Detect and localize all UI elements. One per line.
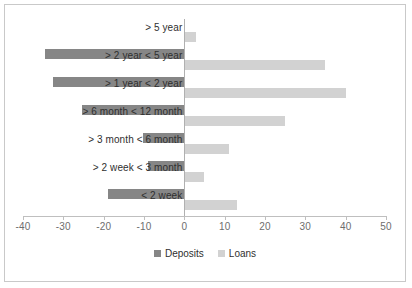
x-tick-label: 10: [205, 221, 245, 232]
x-tick-mark: [225, 216, 226, 220]
x-tick-label: -40: [4, 221, 43, 232]
legend-label: Loans: [229, 248, 256, 259]
x-tick-label: 0: [164, 221, 204, 232]
x-tick-mark: [346, 216, 347, 220]
x-tick-label: 20: [245, 221, 285, 232]
bar-loans: [184, 32, 196, 42]
x-tick-mark: [63, 216, 64, 220]
x-tick-mark: [386, 216, 387, 220]
legend-item[interactable]: Loans: [218, 248, 256, 259]
x-tick-label: 50: [366, 221, 406, 232]
category-label: > 2 year < 5 year: [4, 50, 182, 61]
legend-label: Deposits: [165, 248, 204, 259]
zero-axis-line: [184, 19, 185, 216]
x-axis-line: [23, 216, 386, 217]
category-label: > 3 month < 6 month: [4, 134, 182, 145]
bar-loans: [184, 172, 204, 182]
bar-loans: [184, 88, 345, 98]
x-tick-label: -10: [124, 221, 164, 232]
bar-loans: [184, 144, 228, 154]
chart-frame: -40-30-20-1001020304050 > 5 year> 2 year…: [4, 4, 406, 282]
bar-loans: [184, 116, 285, 126]
x-tick-mark: [23, 216, 24, 220]
x-tick-mark: [184, 216, 185, 220]
x-tick-label: 40: [326, 221, 366, 232]
x-tick-label: -30: [43, 221, 83, 232]
bar-loans: [184, 60, 325, 70]
category-label: > 1 year < 2 year: [4, 78, 182, 89]
x-tick-label: -20: [84, 221, 124, 232]
category-label: < 2 week: [4, 190, 182, 201]
x-tick-mark: [144, 216, 145, 220]
category-label: > 2 week < 3 month: [4, 162, 182, 173]
legend-item[interactable]: Deposits: [154, 248, 204, 259]
category-label: > 5 year: [4, 22, 182, 33]
chart-legend: DepositsLoans: [5, 248, 405, 259]
legend-swatch-icon: [218, 250, 225, 257]
x-tick-label: 30: [285, 221, 325, 232]
bar-loans: [184, 200, 236, 210]
x-tick-mark: [104, 216, 105, 220]
x-tick-mark: [265, 216, 266, 220]
category-label: > 6 month < 12 month: [4, 106, 182, 117]
legend-swatch-icon: [154, 250, 161, 257]
x-tick-mark: [305, 216, 306, 220]
